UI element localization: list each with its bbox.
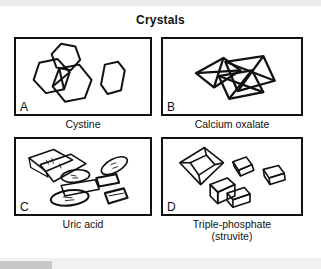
panel-letter-a: A [20,101,28,113]
panel-caption-a: Cystine [14,118,152,130]
panel-caption-b: Calcium oxalate [161,118,303,130]
figure-title: Crystals [0,13,321,27]
panel-letter-b: B [167,101,175,113]
panel-caption-d-line1: Triple-phosphate [193,218,271,230]
panel-a-cystine: A [14,37,152,116]
calcium-oxalate-crystal-illustration [163,39,301,114]
struvite-crystal-illustration [163,139,301,214]
panel-caption-d: Triple-phosphate (struvite) [161,218,303,242]
panel-c-uric-acid: C [14,137,152,216]
panel-caption-d-line2: (struvite) [161,230,303,242]
cystine-crystal-illustration [16,39,150,114]
panel-letter-c: C [20,201,29,213]
figure-root: Crystals A Cystine [0,0,321,269]
scan-band-top [0,0,321,6]
panel-d-triple-phosphate: D [161,137,303,216]
scan-artifact-chip [0,261,52,269]
uric-acid-crystal-illustration [16,139,150,214]
panel-letter-d: D [167,201,176,213]
panel-b-calcium-oxalate: B [161,37,303,116]
panel-caption-c: Uric acid [14,218,152,230]
